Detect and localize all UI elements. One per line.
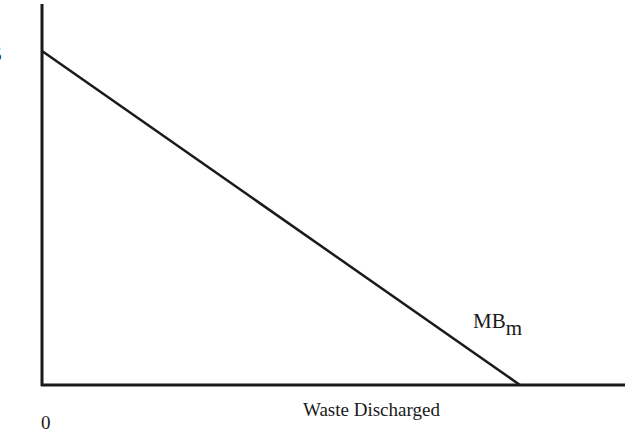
diagram-canvas bbox=[0, 0, 627, 437]
curve-label-subscript: m bbox=[506, 316, 522, 340]
marginal-benefit-line bbox=[42, 51, 520, 385]
origin-label: 0 bbox=[41, 413, 51, 432]
curve-label-main: MB bbox=[473, 309, 506, 333]
curve-label: MBm bbox=[473, 311, 522, 332]
y-axis-label: $ bbox=[0, 44, 2, 65]
x-axis-label: Waste Discharged bbox=[303, 400, 440, 419]
